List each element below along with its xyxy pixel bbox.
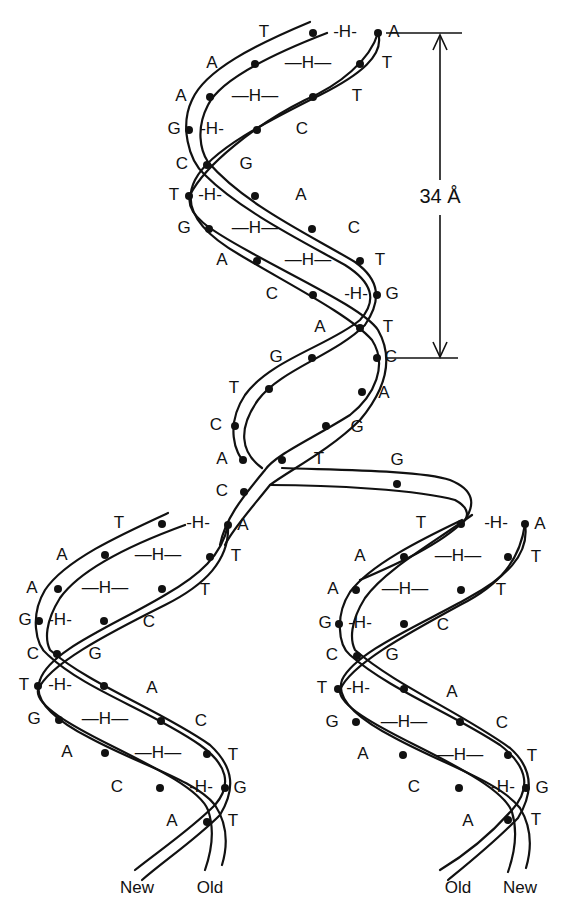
nucleotide-dot <box>203 818 211 826</box>
nucleotide-dot <box>400 620 408 628</box>
hbond-label: —H— <box>435 546 481 565</box>
hbond-label: —H— <box>82 578 128 597</box>
hbond-label: -H- <box>198 185 222 204</box>
dna-replication-diagram: 34 Å T -H- A A —H— T A —H— T G -H- C C G… <box>0 0 569 917</box>
nucleotide-dot <box>278 456 286 464</box>
base-label: T <box>228 811 238 830</box>
nucleotide-dot <box>457 586 465 594</box>
nucleotide-dot <box>253 257 261 265</box>
base-label: T <box>228 745 238 764</box>
base-label: C <box>176 154 188 173</box>
base-label: A <box>237 515 249 534</box>
base-label: G <box>233 778 246 797</box>
nucleotide-dot <box>335 620 343 628</box>
nucleotide-dot <box>455 784 463 792</box>
base-label: A <box>56 545 68 564</box>
nucleotide-dot <box>158 520 166 528</box>
base-label: G <box>269 347 282 366</box>
nucleotide-dot <box>309 291 317 299</box>
nucleotide-dot <box>352 586 360 594</box>
base-label: G <box>385 645 398 664</box>
hbond-label: —H— <box>232 218 278 237</box>
hbond-label: —H— <box>285 250 331 269</box>
nucleotide-dot <box>185 126 193 134</box>
base-label: A <box>314 317 326 336</box>
hbond-label: —H— <box>382 579 428 598</box>
nucleotide-dot <box>239 456 247 464</box>
nucleotide-dot <box>322 422 330 430</box>
nucleotide-dot <box>356 324 364 332</box>
nucleotide-dot <box>205 225 213 233</box>
base-label: T <box>19 675 29 694</box>
nucleotide-dot <box>352 718 360 726</box>
nucleotide-dot <box>373 291 381 299</box>
base-label: T <box>259 22 269 41</box>
nucleotide-dot <box>374 29 382 37</box>
base-label: A <box>175 86 187 105</box>
hbond-label: -H- <box>189 777 213 796</box>
parent-strand-1-edge-a <box>186 22 370 462</box>
pitch-label: 34 Å <box>419 185 461 207</box>
base-label: A <box>357 744 369 763</box>
base-label: A <box>354 546 366 565</box>
nucleotide-dot <box>373 354 381 362</box>
base-label: G <box>18 610 31 629</box>
right-strand-1-edge-b <box>352 515 529 880</box>
base-label: T <box>531 810 541 829</box>
base-label: C <box>348 218 360 237</box>
nucleotide-dot <box>231 422 239 430</box>
helix-pitch-dimension: 34 Å <box>386 33 462 358</box>
hbond-label: -H- <box>346 678 370 697</box>
base-label: C <box>326 645 338 664</box>
nucleotide-dot <box>206 93 214 101</box>
hbond-label: -H- <box>48 610 72 629</box>
base-label: G <box>88 644 101 663</box>
base-label: G <box>177 218 190 237</box>
nucleotide-dot <box>308 354 316 362</box>
base-label: C <box>496 713 508 732</box>
nucleotide-dot <box>504 751 512 759</box>
nucleotide-dot <box>393 480 401 488</box>
base-label: C <box>143 612 155 631</box>
nucleotide-dot <box>100 682 108 690</box>
base-label: C <box>437 615 449 634</box>
base-label: T <box>416 513 426 532</box>
nucleotide-dot <box>101 551 109 559</box>
base-label: T <box>383 317 393 336</box>
left-strand-1-edge-b <box>47 525 230 880</box>
fork-right-edge-b <box>270 485 467 525</box>
base-label: G <box>350 417 363 436</box>
base-label: G <box>390 450 403 469</box>
strand-label-new: New <box>503 878 538 897</box>
base-label: T <box>531 547 541 566</box>
nucleotide-dot <box>101 749 109 757</box>
nucleotide-dot <box>157 717 165 725</box>
base-label: A <box>166 811 178 830</box>
nucleotide-dot <box>55 716 63 724</box>
base-label: T <box>317 678 327 697</box>
base-label: G <box>318 613 331 632</box>
base-label: A <box>295 185 307 204</box>
base-label: A <box>216 250 228 269</box>
base-label: A <box>446 682 458 701</box>
nucleotide-dot <box>353 652 361 660</box>
base-label: T <box>375 250 385 269</box>
nucleotide-dot <box>100 617 108 625</box>
base-label: C <box>195 711 207 730</box>
base-label: G <box>325 712 338 731</box>
nucleotide-dot <box>309 29 317 37</box>
nucleotide-dot <box>308 225 316 233</box>
nucleotide-dot <box>206 553 214 561</box>
nucleotide-dot <box>156 784 164 792</box>
base-label: C <box>27 644 39 663</box>
strand-label-old: Old <box>445 878 471 897</box>
base-label: A <box>216 449 228 468</box>
nucleotide-dot <box>400 685 408 693</box>
base-label: A <box>388 22 400 41</box>
hbond-label: —H— <box>135 545 181 564</box>
hbond-label: -H- <box>48 675 72 694</box>
parent-labels: T -H- A A —H— T A —H— T G -H- C C G T -H… <box>167 22 403 500</box>
nucleotide-dot <box>158 585 166 593</box>
hbond-label: -H- <box>200 119 224 138</box>
base-label: A <box>61 742 73 761</box>
